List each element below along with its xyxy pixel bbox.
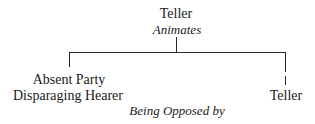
left-branch-connector — [69, 52, 70, 67]
bottom-relation-label: Being Opposed by — [129, 103, 224, 119]
right-branch-connector-lower — [285, 76, 286, 85]
left-node-line-2: Disparaging Hearer — [13, 88, 123, 104]
root-connector — [176, 37, 177, 52]
root-node-label: Teller — [160, 6, 192, 22]
horizontal-branch-line — [69, 52, 286, 53]
left-node-line-1: Absent Party — [33, 72, 106, 88]
right-branch-connector-upper — [285, 52, 286, 72]
right-node-label: Teller — [270, 88, 302, 104]
root-relation-label: Animates — [153, 22, 201, 38]
